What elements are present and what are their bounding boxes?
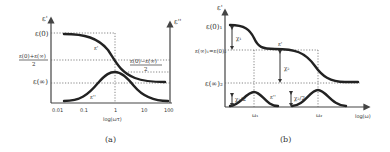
x-tick: 0.01 — [52, 107, 63, 113]
y-axis-label: ε' — [217, 4, 223, 12]
chi2-label: χ₂ — [284, 65, 290, 72]
chi2-half-label: χ₂/2 — [294, 95, 305, 102]
half-diff-denominator: 2 — [144, 66, 148, 72]
caption-a: (a) — [105, 135, 116, 144]
x-tick: 1 — [114, 107, 117, 113]
panel-a: ε' ε'' ε(0) ε(0)+ε(∞) 2 ε(∞) ε(0)−ε(∞) 2… — [19, 15, 182, 144]
y-left-axis-label: ε' — [42, 15, 48, 23]
real-curve-label: ε' — [278, 41, 282, 47]
imag-permittivity-curve — [64, 72, 168, 101]
chi1-label: χ₁ — [236, 35, 242, 42]
omega2-tick: ω₂ — [316, 112, 322, 118]
x-tick: 10 — [141, 107, 147, 113]
imag-curve-label: ε'' — [270, 94, 276, 100]
x-axis-label: log(ω) — [355, 113, 371, 120]
mid-denominator-label: 2 — [32, 61, 36, 67]
caption-b: (b) — [280, 135, 291, 144]
real-permittivity-curve — [230, 25, 358, 82]
panel-b: ε' ε(0)₁ ε(∞)₁=ε(0)₂ ε(∞)₂ χ₁ χ₂ χ₁/2 χ₂… — [195, 4, 371, 144]
eps0-label: ε(0) — [35, 30, 49, 38]
epsinf-label: ε(∞) — [33, 78, 48, 86]
mid-label: ε(∞)₁=ε(0)₂ — [195, 48, 226, 54]
eps0-1-label: ε(0)₁ — [206, 23, 223, 31]
half-diff-numerator: ε(0)−ε(∞) — [130, 58, 157, 64]
x-tick: 0.1 — [80, 107, 88, 113]
chi1-half-label: χ₁/2 — [235, 96, 246, 103]
imag-curve-label: ε'' — [90, 94, 96, 100]
mid-numerator-label: ε(0)+ε(∞) — [19, 53, 46, 59]
dielectric-relaxation-figure: ε' ε'' ε(0) ε(0)+ε(∞) 2 ε(∞) ε(0)−ε(∞) 2… — [0, 0, 390, 152]
y-right-axis-label: ε'' — [174, 18, 182, 26]
x-axis-label: log(ωτ) — [103, 116, 122, 123]
real-curve-label: ε' — [94, 45, 98, 51]
epsinf-2-label: ε(∞)₂ — [205, 80, 223, 88]
omega1-tick: ω₁ — [252, 112, 258, 118]
x-tick: 100 — [164, 107, 174, 113]
